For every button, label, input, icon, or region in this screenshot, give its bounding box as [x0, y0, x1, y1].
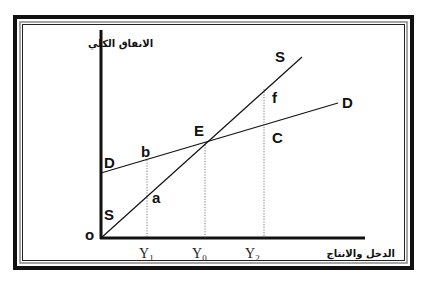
origin-label: o: [85, 226, 94, 243]
point-b-label: b: [141, 143, 150, 160]
y-axis-label: الانفاق الكلي: [88, 38, 153, 50]
x-axis-label: الدخل والانتاج: [327, 248, 395, 260]
point-a-label: a: [152, 189, 161, 206]
tick-y1: Y1: [139, 246, 154, 263]
d-label-end: D: [342, 94, 353, 111]
s-curve: [101, 57, 302, 238]
tick-y0: Y0: [192, 246, 207, 263]
d-curve: [101, 103, 338, 173]
point-e-label: E: [194, 122, 204, 139]
d-label-start: D: [104, 154, 115, 171]
point-c-label: C: [272, 129, 283, 146]
frame: [15, 17, 412, 268]
point-f-label: f: [272, 89, 278, 106]
s-label-start: S: [104, 206, 114, 223]
guide-lines: [147, 89, 264, 238]
diagram-canvas: الانفاق الكلي الدخل والانتاج o S S D D E…: [0, 0, 424, 297]
tick-y2: Y2: [245, 246, 260, 263]
s-label-end: S: [275, 48, 285, 65]
